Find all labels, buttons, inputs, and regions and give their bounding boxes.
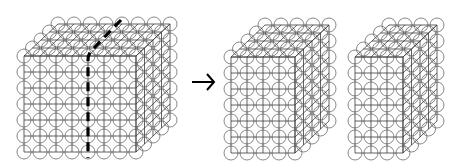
full-lattice: [17, 17, 177, 159]
right-sub-lattice: [348, 18, 444, 160]
right-arrow-icon: [192, 74, 214, 90]
lattice-split-diagram: [0, 0, 463, 168]
left-sub-lattice: [224, 18, 336, 160]
diagram-canvas: [0, 0, 463, 168]
